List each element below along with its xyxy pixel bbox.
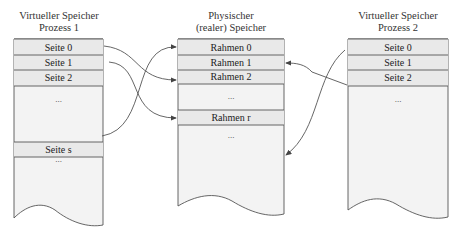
process-1-title-line1: Virtueller Speicher: [14, 10, 104, 22]
physical-memory-title: Physischer (realer) Speicher: [178, 10, 284, 34]
p1-page-2: Seite 2: [14, 70, 103, 85]
arrow-p2-seite2-to-rahmen1: [286, 63, 347, 85]
process-1-title-line2: Prozess 1: [14, 22, 104, 34]
p2-page-1: Seite 1: [348, 55, 448, 70]
physical-memory-title-line2: (realer) Speicher: [178, 22, 284, 34]
p2-ellipsis: ...: [348, 94, 448, 104]
process-1-title: Virtueller Speicher Prozess 1: [14, 10, 104, 34]
process-2-title: Virtueller Speicher Prozess 2: [348, 10, 448, 34]
frame-ellipsis-1: ...: [178, 91, 284, 101]
frame-1: Rahmen 1: [178, 55, 284, 70]
frame-r: Rahmen r: [178, 110, 284, 125]
process-2-title-line1: Virtueller Speicher: [348, 10, 448, 22]
physical-memory-title-line1: Physischer: [178, 10, 284, 22]
p1-page-1: Seite 1: [14, 55, 103, 70]
p1-ellipsis-2: ...: [14, 154, 103, 164]
arrow-p2-seite0-to-physical-lower: [286, 50, 345, 155]
frame-0: Rahmen 0: [178, 40, 284, 55]
arrow-p1-seite-s-to-rahmen0: [102, 47, 176, 136]
p1-page-0: Seite 0: [14, 40, 103, 55]
process-2-title-line2: Prozess 2: [348, 22, 448, 34]
arrow-p1-seite1-to-rahmen-r: [109, 62, 176, 118]
p2-page-0: Seite 0: [348, 40, 448, 55]
p1-ellipsis-1: ...: [14, 94, 103, 104]
p2-page-2: Seite 2: [348, 70, 448, 85]
frame-2: Rahmen 2: [178, 69, 284, 84]
frame-ellipsis-2: ...: [178, 130, 284, 140]
